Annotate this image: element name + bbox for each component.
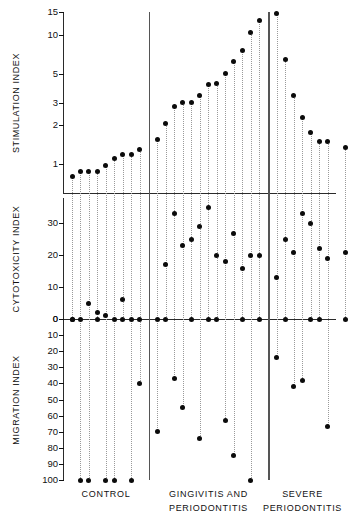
migration-tick-label-40: 40 <box>22 377 58 388</box>
migration-point <box>343 317 348 322</box>
migration-tick-60 <box>59 416 64 417</box>
migration-point <box>180 405 185 410</box>
migration-tick-50 <box>59 400 64 401</box>
subject-stem <box>166 124 168 319</box>
group-label-1-line-1: CONTROL <box>82 489 131 499</box>
subject-stem <box>208 85 210 319</box>
group-label-3-line-2: PERIODONTITIS <box>263 503 342 513</box>
migration-point <box>172 376 177 381</box>
migration-tick-70 <box>59 432 64 433</box>
cytotoxicity-point <box>189 237 194 242</box>
migration-tick-100 <box>59 480 64 481</box>
subject-stem <box>294 95 296 386</box>
migration-tick-label-50: 50 <box>22 394 58 405</box>
stimulation-point <box>70 174 75 179</box>
migration-point <box>240 317 245 322</box>
stimulation-tick-10 <box>59 35 64 36</box>
stimulation-point <box>189 100 194 105</box>
cytotoxicity-axis-spine <box>63 198 64 319</box>
subject-stem <box>277 14 279 358</box>
migration-tick-label-60: 60 <box>22 410 58 421</box>
cytotoxicity-point <box>240 266 245 271</box>
migration-point <box>189 317 194 322</box>
migration-tick-80 <box>59 448 64 449</box>
subject-stem <box>200 95 202 438</box>
cytotoxicity-tick-label-10: 10 <box>22 281 58 292</box>
stimulation-tick-label-3: 3 <box>22 97 58 108</box>
stimulation-point <box>172 104 177 109</box>
group-divider-2 <box>268 12 269 480</box>
migration-point <box>325 424 330 429</box>
migration-tick-20 <box>59 351 64 352</box>
cytotoxicity-point <box>257 253 262 258</box>
cytotoxicity-point <box>155 317 160 322</box>
subject-stem <box>225 74 227 421</box>
group-label-2-line-1: GINGIVITIS AND <box>169 489 248 499</box>
cytotoxicity-point <box>283 237 288 242</box>
subject-stem <box>123 154 125 319</box>
stimulation-point <box>95 169 100 174</box>
migration-tick-label-20: 20 <box>22 345 58 356</box>
subject-stem <box>302 117 304 380</box>
stimulation-point <box>317 139 322 144</box>
migration-axis-title: MIGRATION INDEX <box>11 355 21 444</box>
subject-stem <box>80 171 82 480</box>
stimulation-point <box>257 18 262 23</box>
cytotoxicity-tick-10 <box>59 287 64 288</box>
migration-tick-label-100: 100 <box>22 474 58 485</box>
migration-tick-30 <box>59 367 64 368</box>
migration-tick-0 <box>59 319 64 320</box>
migration-tick-label-30: 30 <box>22 361 58 372</box>
subject-stem <box>174 106 176 378</box>
migration-point <box>78 478 83 483</box>
subject-stem <box>217 84 219 319</box>
migration-point <box>317 317 322 322</box>
group-label-2-line-2: PERIODONTITIS <box>169 503 248 513</box>
cytotoxicity-point <box>343 250 348 255</box>
migration-point <box>155 429 160 434</box>
subject-stem <box>97 171 99 319</box>
migration-point <box>129 478 134 483</box>
subject-stem <box>285 59 287 319</box>
migration-point <box>283 317 288 322</box>
stimulation-tick-label-1: 1 <box>22 158 58 169</box>
cytotoxicity-tick-label-30: 30 <box>22 217 58 228</box>
migration-point <box>70 317 75 322</box>
stimulation-tick-3 <box>59 103 64 104</box>
cytotoxicity-tick-label-20: 20 <box>22 249 58 260</box>
subject-stem <box>345 147 347 319</box>
migration-point <box>223 418 228 423</box>
migration-tick-label-0: 0 <box>22 313 58 324</box>
migration-tick-90 <box>59 464 64 465</box>
cytotoxicity-point <box>112 317 117 322</box>
subject-stem <box>242 51 244 319</box>
stimulation-tick-1 <box>59 164 64 165</box>
subject-stem <box>259 20 261 319</box>
migration-point <box>95 317 100 322</box>
subject-stem <box>89 171 91 480</box>
migration-point <box>274 355 279 360</box>
cytotoxicity-point <box>129 317 134 322</box>
stimulation-point <box>78 169 83 174</box>
migration-point <box>137 381 142 386</box>
subject-stem <box>311 133 313 319</box>
stimulation-tick-label-10: 10 <box>22 29 58 40</box>
migration-point <box>206 317 211 322</box>
subject-stem <box>191 103 193 320</box>
stimulation-point <box>300 115 305 120</box>
migration-tick-label-10: 10 <box>22 329 58 340</box>
stimulation-point <box>343 145 348 150</box>
stimulation-axis-title: STIMULATION INDEX <box>11 52 21 152</box>
subject-stem <box>72 177 74 319</box>
cytotoxicity-point <box>78 317 83 322</box>
stimulation-tick-label-2: 2 <box>22 119 58 130</box>
migration-tick-40 <box>59 383 64 384</box>
migration-tick-label-70: 70 <box>22 426 58 437</box>
migration-tick-10 <box>59 335 64 336</box>
subject-stem <box>328 141 330 426</box>
migration-tick-label-90: 90 <box>22 458 58 469</box>
stimulation-point <box>283 57 288 62</box>
cytotoxicity-axis-title: CYTOTOXICITY INDEX <box>11 205 21 312</box>
subject-stem <box>234 62 236 456</box>
